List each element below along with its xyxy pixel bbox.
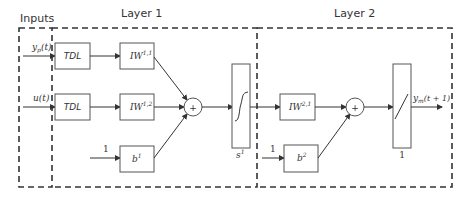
bias2-input-label: 1 bbox=[270, 144, 276, 154]
inputs-title: Inputs bbox=[20, 12, 54, 25]
sum-node-2: + bbox=[346, 98, 364, 116]
wire-iw11-to-sum1 bbox=[154, 57, 187, 100]
input-u-label: u(t) bbox=[33, 93, 50, 103]
svg-text:+: + bbox=[351, 103, 359, 113]
tdl-block-1: TDL bbox=[55, 43, 90, 69]
bias1-input-label: 1 bbox=[103, 144, 109, 154]
svg-text:+: + bbox=[189, 103, 197, 113]
layer2-title: Layer 2 bbox=[334, 7, 375, 20]
bias-b2-block: b2 bbox=[284, 145, 318, 172]
weight-iw11-block: IW1,1 bbox=[120, 43, 154, 69]
tdl-block-2: TDL bbox=[55, 94, 90, 120]
wire-b2-to-sum2 bbox=[318, 114, 350, 158]
layer1-title: Layer 1 bbox=[121, 7, 162, 20]
sum-node-1: + bbox=[184, 98, 202, 116]
sigmoid-transfer-s1: s1 bbox=[232, 64, 250, 160]
svg-text:s1: s1 bbox=[236, 148, 244, 160]
svg-text:1: 1 bbox=[399, 150, 405, 160]
input-yp-label: yp(t) bbox=[31, 42, 52, 54]
wire-b1-to-sum1 bbox=[154, 114, 187, 158]
weight-iw21-block: IW2,1 bbox=[280, 94, 315, 120]
svg-text:TDL: TDL bbox=[64, 51, 81, 61]
weight-iw12-block: IW1,2 bbox=[120, 94, 154, 120]
narx-diagram: Inputs Layer 1 Layer 2 yp(t) u(t) TDL TD… bbox=[0, 0, 469, 198]
linear-transfer-block: 1 bbox=[393, 64, 411, 160]
svg-text:TDL: TDL bbox=[64, 102, 81, 112]
bias-b1-block: b1 bbox=[120, 146, 154, 172]
output-label: ym(t + 1) bbox=[412, 93, 450, 104]
